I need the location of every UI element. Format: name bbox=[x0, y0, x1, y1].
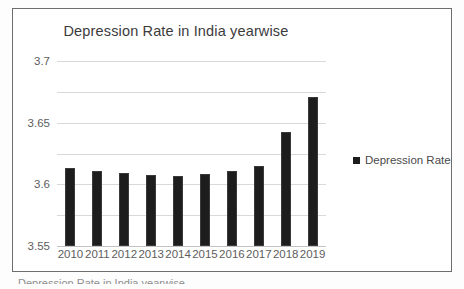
x-axis-tick-label: 2018 bbox=[272, 248, 299, 260]
bar-slot bbox=[218, 61, 245, 246]
bar-2015 bbox=[200, 174, 210, 246]
bar-series bbox=[57, 61, 326, 246]
chart-title: Depression Rate in India yearwise bbox=[13, 23, 339, 39]
bar-slot bbox=[57, 61, 84, 246]
bar-slot bbox=[84, 61, 111, 246]
bar-2018 bbox=[281, 132, 291, 246]
bar-2019 bbox=[308, 97, 318, 246]
x-axis-tick-label: 2015 bbox=[192, 248, 219, 260]
gridline: 3.4 bbox=[57, 246, 326, 247]
bar-slot bbox=[272, 61, 299, 246]
x-axis-labels: 2010201120122013201420152016201720182019 bbox=[57, 248, 326, 260]
x-axis-tick-label: 2010 bbox=[57, 248, 84, 260]
x-axis-tick-label: 2016 bbox=[218, 248, 245, 260]
bar-slot bbox=[138, 61, 165, 246]
y-axis-tick-label: 3.7 bbox=[34, 55, 50, 67]
bar-2010 bbox=[65, 168, 75, 246]
bar-slot bbox=[192, 61, 219, 246]
bar-slot bbox=[111, 61, 138, 246]
y-axis-tick-label: 3.65 bbox=[28, 117, 50, 129]
y-axis-tick-label: 3.55 bbox=[28, 240, 50, 252]
caption-strip: Depression Rate in India yearwise bbox=[18, 279, 318, 284]
x-axis-tick-label: 2017 bbox=[245, 248, 272, 260]
bar-2011 bbox=[92, 171, 102, 246]
y-axis-tick-label: 3.6 bbox=[34, 178, 50, 190]
x-axis-tick-label: 2011 bbox=[84, 248, 111, 260]
chart-frame: Depression Rate in India yearwise 3.73.6… bbox=[12, 8, 452, 272]
x-axis-tick-label: 2014 bbox=[165, 248, 192, 260]
x-axis-tick-label: 2019 bbox=[299, 248, 326, 260]
chart-legend: Depression Rate bbox=[353, 154, 451, 166]
bar-2014 bbox=[173, 176, 183, 246]
bar-2017 bbox=[254, 166, 264, 246]
scan-background: Depression Rate in India yearwise 3.73.6… bbox=[0, 0, 464, 289]
legend-label-depression-rate: Depression Rate bbox=[365, 154, 451, 166]
bar-slot bbox=[245, 61, 272, 246]
bar-2016 bbox=[227, 171, 237, 246]
bar-slot bbox=[165, 61, 192, 246]
plot-area: 3.73.653.63.553.53.453.4 bbox=[57, 61, 326, 246]
x-axis-tick-label: 2013 bbox=[138, 248, 165, 260]
caption-ghost-text: Depression Rate in India yearwise bbox=[18, 279, 318, 284]
bar-slot bbox=[299, 61, 326, 246]
bar-2013 bbox=[146, 175, 156, 246]
x-axis-tick-label: 2012 bbox=[111, 248, 138, 260]
bar-2012 bbox=[119, 173, 129, 246]
legend-square-marker bbox=[353, 157, 360, 164]
